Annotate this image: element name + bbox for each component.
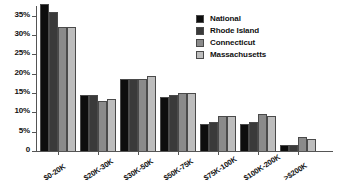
legend-item[interactable]: Rhode Island	[196, 25, 266, 36]
bar[interactable]	[58, 27, 67, 151]
bar[interactable]	[258, 114, 267, 151]
bar[interactable]	[89, 95, 98, 151]
legend-item[interactable]: National	[196, 13, 266, 24]
bar[interactable]	[178, 93, 187, 151]
legend: NationalRhode IslandConnecticutMassachus…	[196, 13, 266, 61]
legend-swatch-icon	[196, 27, 204, 35]
bar[interactable]	[249, 122, 258, 151]
legend-item-label: Rhode Island	[210, 26, 259, 35]
y-axis-tick: 30%	[0, 35, 36, 36]
bar[interactable]	[209, 122, 218, 151]
legend-item-label: Connecticut	[210, 38, 255, 47]
y-axis-tick-label: 10%	[15, 106, 30, 115]
legend-item-label: National	[210, 14, 241, 23]
y-axis-tick-label: 15%	[15, 87, 30, 96]
x-axis-tick-mark	[178, 151, 179, 155]
x-axis-tick-mark	[138, 151, 139, 155]
y-axis-tick-label: 30%	[15, 29, 30, 38]
bar-group	[160, 6, 196, 151]
bar[interactable]	[298, 137, 307, 151]
bar-group	[40, 6, 76, 151]
x-axis-category-label: $0-20K	[42, 162, 67, 183]
bar[interactable]	[227, 116, 236, 151]
x-axis-tick-mark	[218, 151, 219, 155]
bar[interactable]	[307, 139, 316, 151]
bar[interactable]	[98, 101, 107, 151]
legend-item-label: Massachusetts	[210, 50, 266, 59]
bar-group	[280, 6, 316, 151]
y-axis-tick: 10%	[0, 112, 36, 113]
bar[interactable]	[267, 116, 276, 151]
y-axis-tick-label: 20%	[15, 68, 30, 77]
x-axis-line	[36, 151, 333, 152]
bar[interactable]	[200, 124, 209, 151]
y-axis-tick: 35%	[0, 16, 36, 17]
legend-swatch-icon	[196, 15, 204, 23]
bar[interactable]	[120, 79, 129, 151]
x-axis-tick-mark	[298, 151, 299, 155]
y-axis-tick-label: 25%	[15, 48, 30, 57]
x-axis-category-label: $30K-50K	[122, 157, 155, 183]
y-axis-tick-label: 5%	[19, 126, 30, 135]
legend-swatch-icon	[196, 51, 204, 59]
x-axis-category-label: $20K-30K	[82, 157, 115, 183]
bar[interactable]	[67, 27, 76, 151]
bar[interactable]	[40, 4, 49, 151]
bar[interactable]	[289, 145, 298, 151]
x-axis-category-label: $100K-200K	[242, 152, 282, 182]
bar[interactable]	[80, 95, 89, 151]
bar[interactable]	[240, 124, 249, 151]
y-axis-tick: 0	[0, 151, 36, 152]
y-axis-tick-label: 0	[26, 145, 30, 154]
bar-group	[80, 6, 116, 151]
plot-area	[36, 6, 332, 151]
x-axis-tick-mark	[98, 151, 99, 155]
bar[interactable]	[107, 99, 116, 151]
legend-swatch-icon	[196, 39, 204, 47]
bar[interactable]	[187, 93, 196, 151]
legend-item[interactable]: Massachusetts	[196, 49, 266, 60]
y-axis-tick: 20%	[0, 74, 36, 75]
bar[interactable]	[138, 79, 147, 151]
bar[interactable]	[280, 145, 289, 151]
bar[interactable]	[160, 97, 169, 151]
x-axis-tick-mark	[258, 151, 259, 155]
y-axis-tick: 5%	[0, 132, 36, 133]
x-axis-tick-mark	[58, 151, 59, 155]
y-axis-tick: 25%	[0, 54, 36, 55]
bar[interactable]	[218, 116, 227, 151]
bar[interactable]	[49, 12, 58, 151]
y-axis-tick-label: 35%	[15, 10, 30, 19]
bar-chart: 05%10%15%20%25%30%35% $0-20K$20K-30K$30K…	[0, 0, 341, 187]
x-axis-category-label: $50K-75K	[162, 157, 195, 183]
bar[interactable]	[169, 95, 178, 151]
legend-item[interactable]: Connecticut	[196, 37, 266, 48]
x-axis-category-label: >$200K	[282, 161, 309, 183]
bar[interactable]	[147, 76, 156, 151]
y-axis-tick-mark	[32, 151, 36, 152]
bar-group	[120, 6, 156, 151]
x-axis-category-label: $75K-100K	[202, 155, 238, 183]
bar[interactable]	[129, 79, 138, 151]
y-axis-tick: 15%	[0, 93, 36, 94]
